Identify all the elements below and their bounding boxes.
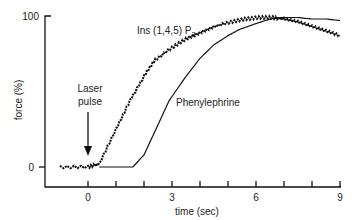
xtick-label-3: 3	[169, 192, 175, 203]
laser-label-line2: pulse	[78, 96, 102, 107]
ip3-label: Ins (1,4,5) P3	[137, 25, 195, 38]
y-axis-title: force (%)	[13, 80, 24, 121]
xtick-label-0: 0	[85, 192, 91, 203]
force-time-chart: 100 0 0 3 6 9 time (sec) force (%) Laser…	[0, 0, 355, 220]
phenylephrine-label: Phenylephrine	[176, 97, 240, 108]
laser-label-line1: Laser	[77, 83, 103, 94]
xticks	[88, 181, 340, 187]
xtick-label-6: 6	[253, 192, 259, 203]
x-axis-title: time (sec)	[175, 206, 219, 217]
laser-arrow-icon	[84, 112, 92, 156]
ytick-label-0: 0	[28, 162, 34, 173]
ytick-label-100: 100	[22, 11, 39, 22]
xtick-label-9: 9	[337, 192, 343, 203]
